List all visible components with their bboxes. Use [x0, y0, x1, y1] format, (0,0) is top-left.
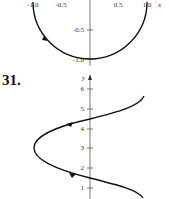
y-tick-4: 4 — [81, 125, 85, 133]
y-tick-neg05: -0.5 — [73, 26, 85, 34]
direction-arrow-icon — [66, 122, 73, 127]
figure-31: y 6 5 4 3 2 1 — [34, 74, 144, 199]
y-tick-1: 1 — [81, 184, 85, 192]
top-figure: -1.0 -0.5 0.5 1.0 x -0.5 -1.0 — [27, 0, 162, 66]
y-tick-5: 5 — [81, 105, 85, 113]
y-tick-6: 6 — [81, 85, 85, 93]
y-tick-3: 3 — [81, 144, 85, 152]
x-axis-label: x — [157, 1, 162, 9]
sine-curve — [34, 96, 144, 198]
y-tick-2: 2 — [81, 164, 85, 172]
y-axis-label: y — [81, 74, 86, 82]
x-tick-neg05: -0.5 — [55, 1, 67, 9]
x-tick-05: 0.5 — [114, 1, 123, 9]
diagram-canvas: -1.0 -0.5 0.5 1.0 x -0.5 -1.0 y 6 5 4 3 … — [0, 0, 169, 199]
y-axis-arrow-icon — [88, 74, 92, 80]
